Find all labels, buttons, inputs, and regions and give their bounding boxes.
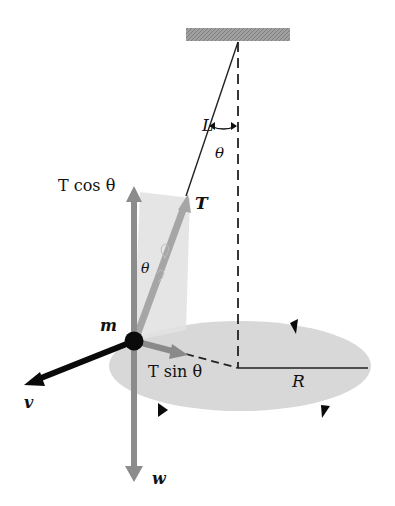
label-tension: T: [195, 193, 209, 213]
label-length: L: [201, 115, 213, 135]
label-radius: R: [291, 371, 305, 391]
diagram-canvas: L θ T T cos θ θ m T sin θ R v w: [0, 0, 395, 506]
label-t-cos-theta: T cos θ: [58, 176, 115, 195]
label-theta-top: θ: [215, 144, 224, 162]
rotation-arrowhead-bottom-right: [321, 405, 330, 418]
rotation-arrowhead-bottom-left: [158, 403, 168, 417]
velocity-arrowhead: [24, 372, 45, 386]
label-weight: w: [152, 469, 167, 488]
ceiling-support: [186, 28, 290, 41]
mass-bob: [125, 332, 144, 351]
theta-arc-arrowhead-right: [231, 122, 237, 130]
label-mass: m: [100, 316, 117, 335]
label-velocity: v: [24, 393, 34, 412]
t-cos-theta-arrowhead: [126, 186, 142, 202]
conical-pendulum-diagram: L θ T T cos θ θ m T sin θ R v w: [0, 0, 395, 506]
weight-arrowhead: [125, 466, 143, 482]
label-t-sin-theta: T sin θ: [148, 362, 202, 381]
label-theta-mass: θ: [141, 260, 150, 276]
